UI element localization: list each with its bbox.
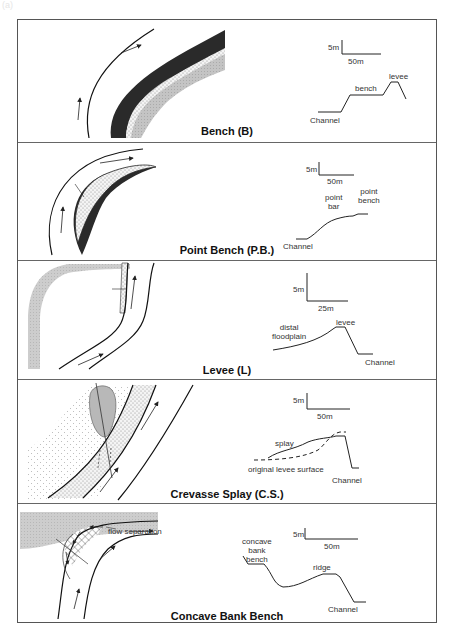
label-splay: splay [275,439,294,448]
plan-view [49,149,156,255]
label-channel: Channel [332,476,362,485]
scale-bar [307,273,348,301]
panel-point-bench: 5m 50m point bar point bench Channel Poi… [18,142,436,260]
panel-title: Point Bench (P.B.) [18,244,436,256]
label-point-bench: point bench [358,187,380,205]
plan-view [28,263,154,369]
cross-section-profile [254,432,359,468]
label-concave-bank-bench: concave bank bench [242,537,272,564]
plan-view [78,29,225,138]
label-levee: levee [336,318,355,327]
scale-horizontal: 25m [318,304,334,313]
panel-crevasse-splay: 5m 50m splay original levee surface Chan… [18,379,436,503]
scale-horizontal: 50m [324,542,340,551]
plan-view [28,383,193,500]
scale-bar [307,393,350,409]
panel-title: Bench (B) [18,125,436,137]
label-flow-separation: flow separation [108,527,162,536]
scale-horizontal: 50m [327,177,343,186]
crevasse-splay-diagram [18,380,436,503]
panel-levee: 5m 25m distal floodplain levee Channel L… [18,260,436,379]
bench-diagram [18,20,436,142]
label-bench: bench [355,84,377,93]
label-original-levee-surface: original levee surface [248,465,324,474]
scale-vertical: 5m [328,43,339,52]
scale-horizontal: 50m [317,412,333,421]
label-point-bar: point bar [325,193,342,211]
label-ridge: ridge [313,563,331,572]
scale-vertical: 5m [293,396,304,405]
scale-horizontal: 50m [348,57,364,66]
panel-bench: 5m 50m levee bench Channel Bench (B) [18,20,436,142]
scale-bar [319,162,354,175]
cross-section-profile [296,214,368,239]
scale-bar [305,528,358,539]
label-distal-floodplain: distal floodplain [272,323,306,341]
figure-label: (a) [2,0,13,10]
scale-bar [342,40,381,54]
panel-title: Crevasse Splay (C.S.) [18,488,436,500]
scale-vertical: 5m [293,530,304,539]
scale-vertical: 5m [306,165,317,174]
concave-bank-bench-diagram [18,504,436,624]
label-levee: levee [389,72,408,81]
panel-title: Levee (L) [18,364,436,376]
scale-vertical: 5m [293,285,304,294]
label-channel: Channel [310,116,340,125]
panel-concave-bank-bench: flow separation 5m 50m concave bank benc… [18,503,436,624]
panel-title: Concave Bank Bench [18,610,436,622]
figure-frame: 5m 50m levee bench Channel Bench (B) 5m [17,19,437,623]
